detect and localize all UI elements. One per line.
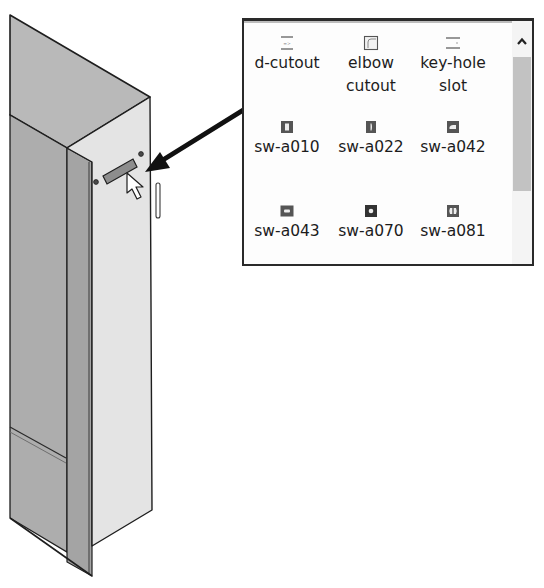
scrollbar-thumb[interactable]	[513, 57, 531, 191]
elbow-cutout-icon	[363, 35, 379, 51]
vertical-scrollbar[interactable]	[512, 21, 532, 264]
d-shape-cutout-icon	[445, 119, 461, 135]
library-item-d-cutout[interactable]: => d-cutout	[244, 35, 330, 75]
round-hole-icon	[363, 203, 379, 219]
chevron-up-icon	[516, 37, 528, 45]
library-item-sw-a022[interactable]: sw-a022	[328, 119, 414, 159]
library-item-label: elbow cutout	[328, 52, 414, 98]
library-item-sw-a081[interactable]: sw-a081	[410, 203, 496, 243]
library-item-label: key-hole slot	[410, 52, 496, 98]
library-item-sw-a070[interactable]: sw-a070	[328, 203, 414, 243]
library-item-label: sw-a042	[410, 136, 496, 159]
svg-text:=>: =>	[283, 41, 291, 46]
scroll-up-button[interactable]	[512, 33, 532, 49]
rect-slot-tall-icon	[279, 119, 295, 135]
library-item-sw-a010[interactable]: sw-a010	[244, 119, 330, 159]
library-item-label: sw-a010	[244, 136, 330, 159]
library-item-grid: => d-cutout elbow cutout key-hole slot	[244, 21, 508, 264]
library-item-label: sw-a022	[328, 136, 414, 159]
rect-slot-wide-icon	[279, 203, 295, 219]
library-item-label: sw-a070	[328, 220, 414, 243]
narrow-slot-icon	[363, 119, 379, 135]
library-item-label: d-cutout	[244, 52, 330, 75]
library-item-sw-a042[interactable]: sw-a042	[410, 119, 496, 159]
key-hole-slot-icon	[445, 35, 461, 51]
double-d-cutout-icon	[445, 203, 461, 219]
library-item-label: sw-a043	[244, 220, 330, 243]
design-library-panel: => d-cutout elbow cutout key-hole slot	[242, 18, 534, 266]
library-item-label: sw-a081	[410, 220, 496, 243]
d-cutout-icon: =>	[279, 35, 295, 51]
library-item-key-hole-slot[interactable]: key-hole slot	[410, 35, 496, 98]
library-item-sw-a043[interactable]: sw-a043	[244, 203, 330, 243]
library-item-elbow-cutout[interactable]: elbow cutout	[328, 35, 414, 98]
